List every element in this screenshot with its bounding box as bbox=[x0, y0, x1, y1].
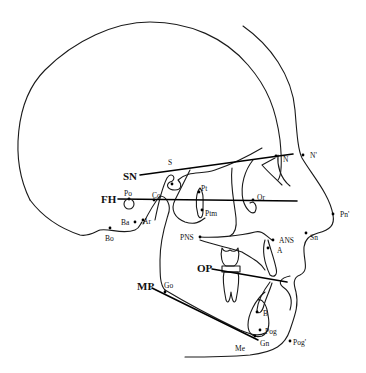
cephalometric-diagram: SN FH OP MP S N Po Or Co Pt Ptm Ba Ar Bo… bbox=[0, 0, 366, 373]
upper-molar bbox=[221, 248, 239, 266]
lower-molar bbox=[223, 272, 239, 302]
landmark-pog bbox=[259, 329, 262, 332]
label-co: Co bbox=[152, 191, 161, 200]
landmark-ans bbox=[272, 239, 275, 242]
mandibular-plane bbox=[152, 288, 258, 340]
landmark-n bbox=[275, 155, 278, 158]
ear-rod-po bbox=[124, 199, 134, 209]
landmark-pog-soft bbox=[289, 340, 292, 343]
label-n-soft: N' bbox=[310, 151, 317, 160]
label-ba: Ba bbox=[121, 218, 130, 227]
landmark-sn bbox=[305, 232, 308, 235]
label-b: B bbox=[263, 309, 268, 318]
upper-incisor bbox=[264, 240, 277, 276]
label-sn: SN bbox=[123, 170, 137, 182]
label-po: Po bbox=[124, 189, 132, 198]
label-a: A bbox=[277, 246, 283, 255]
label-ar: Ar bbox=[143, 217, 151, 226]
landmark-s bbox=[171, 183, 174, 186]
label-bo: Bo bbox=[105, 234, 114, 243]
label-n: N bbox=[283, 155, 289, 164]
label-pog-soft: Pog' bbox=[293, 338, 307, 347]
landmark-a bbox=[267, 247, 270, 250]
sn-plane bbox=[140, 154, 293, 175]
label-pns: PNS bbox=[180, 233, 194, 242]
landmark-pn-soft bbox=[332, 213, 335, 216]
label-pt: Pt bbox=[201, 184, 208, 193]
orbit-lower bbox=[242, 160, 256, 213]
fh-plane bbox=[118, 199, 297, 201]
palatal-outline bbox=[200, 232, 272, 240]
mandible-lower-border bbox=[165, 290, 265, 335]
label-pn-soft: Pn' bbox=[340, 210, 350, 219]
landmark-ba bbox=[134, 221, 137, 224]
label-pog: Pog bbox=[265, 327, 277, 336]
label-or: Or bbox=[257, 193, 265, 202]
zygomatic-contour bbox=[173, 170, 205, 223]
label-s: S bbox=[168, 158, 172, 167]
label-go: Go bbox=[164, 281, 173, 290]
landmark-bo bbox=[109, 227, 112, 230]
landmark-go bbox=[164, 291, 167, 294]
landmark-gn bbox=[254, 335, 257, 338]
landmark-or bbox=[252, 199, 255, 202]
label-op: OP bbox=[197, 262, 213, 274]
landmark-pt bbox=[198, 191, 201, 194]
label-ans: ANS bbox=[279, 236, 294, 245]
landmark-n-soft bbox=[302, 154, 305, 157]
landmark-b bbox=[256, 311, 259, 314]
label-sn-soft: Sn bbox=[310, 233, 318, 242]
label-mp: MP bbox=[137, 280, 154, 292]
mandible-ramus bbox=[143, 196, 169, 290]
label-gn: Gn bbox=[260, 339, 269, 348]
landmark-pns bbox=[199, 236, 202, 239]
label-ptm: Ptm bbox=[205, 209, 217, 218]
landmark-ptm bbox=[201, 209, 204, 212]
label-fh: FH bbox=[101, 193, 117, 205]
label-me: Me bbox=[235, 344, 246, 353]
orbit-contour bbox=[230, 168, 236, 236]
